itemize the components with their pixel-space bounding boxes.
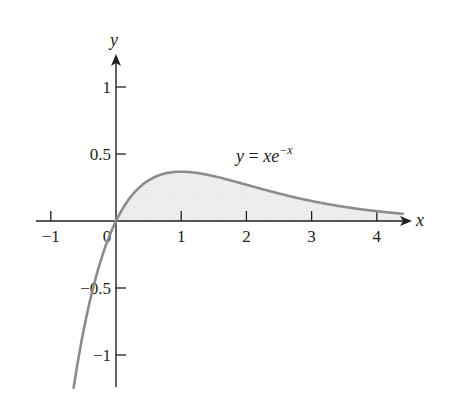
shaded-area	[116, 172, 403, 221]
x-tick-label: 2	[242, 227, 251, 246]
x-tick-label: 1	[177, 227, 186, 246]
equation-exponent: −x	[279, 143, 293, 157]
chart-plot: −101234 −1−0.50.51 x y y = xe−x	[0, 0, 450, 395]
y-tick-label: 1	[103, 78, 112, 97]
x-tick-label: 3	[307, 227, 316, 246]
y-tick-label: 0.5	[90, 145, 111, 164]
equation-lhs: y	[234, 146, 244, 166]
x-tick-label: −1	[42, 227, 60, 246]
equation-annotation: y = xe−x	[234, 143, 293, 166]
y-axis-label: y	[108, 30, 118, 50]
y-tick-label: −1	[93, 346, 111, 365]
x-axis-label: x	[415, 210, 424, 230]
x-tick-label: 4	[373, 227, 382, 246]
